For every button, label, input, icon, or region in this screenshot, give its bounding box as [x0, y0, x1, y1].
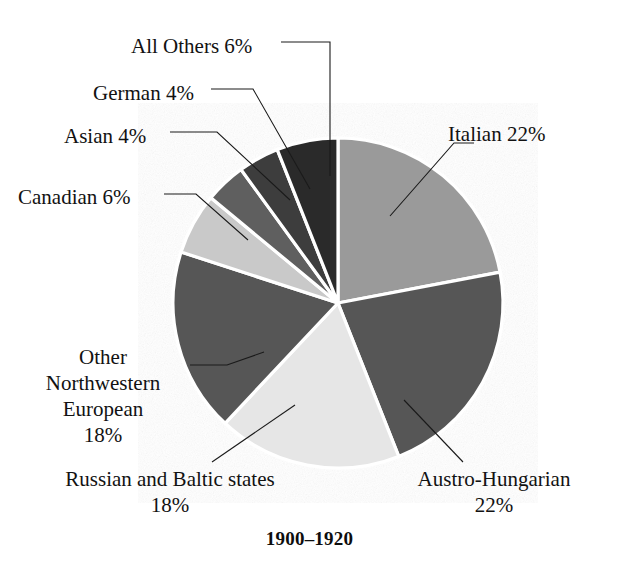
slice-label-other-nw-line1: Other [20, 344, 186, 370]
slice-label-russian-line2: 18% [36, 492, 304, 518]
slice-label-russian-and-baltic-states: Russian and Baltic states 18% [36, 466, 304, 518]
pie-chart-figure: All Others 6% German 4% Asian 4% Canadia… [0, 0, 619, 579]
slice-label-other-nw-line4: 18% [20, 422, 186, 448]
slice-label-austro-line2: 22% [398, 492, 590, 518]
slice-label-russian-line1: Russian and Baltic states [36, 466, 304, 492]
slice-label-canadian: Canadian 6% [18, 184, 131, 210]
slice-label-other-nw-line2: Northwestern [20, 370, 186, 396]
slice-label-german: German 4% [93, 80, 194, 106]
pie-slices-group [172, 137, 504, 469]
slice-label-austro-hungarian: Austro-Hungarian 22% [398, 466, 590, 518]
slice-label-italian: Italian 22% [448, 121, 545, 147]
slice-label-all-others: All Others 6% [131, 33, 252, 59]
slice-label-austro-line1: Austro-Hungarian [398, 466, 590, 492]
chart-title: 1900–1920 [0, 528, 619, 550]
slice-label-other-nw-line3: European [20, 396, 186, 422]
slice-label-other-northwestern-european: Other Northwestern European 18% [20, 344, 186, 448]
slice-label-asian: Asian 4% [64, 123, 146, 149]
